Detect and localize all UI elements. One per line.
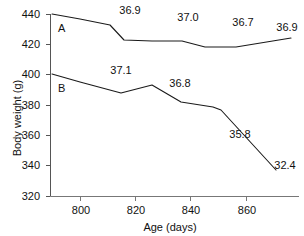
plot-area: [0, 0, 304, 236]
point-label-b-2: 36.8: [165, 78, 195, 89]
point-label-a-2: 37.0: [173, 12, 203, 23]
series-label-a: A: [58, 22, 65, 34]
point-label-b-4: 32.4: [270, 160, 300, 171]
chart-figure: 440 420 400 380 360 340 320 800 820 840 …: [0, 0, 304, 236]
y-axis-ticks: [46, 15, 51, 197]
x-axis-ticks: [81, 197, 247, 202]
series-line-b: [52, 74, 276, 170]
y-axis-title: Body weight (g): [11, 63, 23, 173]
x-tick-label-840: 840: [174, 205, 208, 216]
point-label-a-4: 36.9: [272, 22, 302, 33]
y-tick-label-440: 440: [10, 9, 40, 20]
y-tick-label-320: 320: [10, 191, 40, 202]
point-label-a-1: 36.9: [115, 5, 145, 16]
x-tick-label-860: 860: [230, 205, 264, 216]
x-tick-label-800: 800: [64, 205, 98, 216]
point-label-b-3: 35.8: [225, 129, 255, 140]
series-label-b: B: [58, 82, 65, 94]
point-label-b-1: 37.1: [106, 65, 136, 76]
x-tick-label-820: 820: [119, 205, 153, 216]
x-axis-title: Age (days): [110, 221, 230, 233]
y-tick-label-420: 420: [10, 39, 40, 50]
point-label-a-3: 36.7: [228, 17, 258, 28]
